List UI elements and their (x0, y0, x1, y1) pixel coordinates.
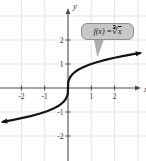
x-tick-label: -1 (42, 92, 48, 101)
x-tick-label: 2 (113, 92, 117, 101)
y-tick-label: 1 (60, 60, 64, 69)
x-tick-label: 1 (89, 92, 93, 101)
callout-tail (94, 38, 104, 56)
y-tick-label: -1 (57, 108, 63, 117)
y-tick-label: -2 (57, 132, 63, 141)
y-tick-label: 2 (60, 36, 64, 45)
function-curve-layer (1, 51, 142, 123)
curve-right-arrow (135, 51, 142, 56)
function-label-callout: f(x) = ∛x (81, 23, 134, 40)
y-axis-arrow (66, 8, 71, 14)
callout-tail-pointer (94, 38, 104, 56)
radicand: x (118, 24, 122, 39)
x-tick-label: -2 (18, 92, 24, 101)
function-curve (3, 53, 140, 122)
function-label-prefix: f(x) = (93, 24, 112, 39)
curve-left-arrow (1, 118, 8, 123)
x-axis-label: x (143, 84, 146, 94)
y-axis-label: y (72, 1, 77, 11)
cube-root-function-figure: yx -2-11221-1-2 f(x) = ∛x (0, 0, 146, 161)
